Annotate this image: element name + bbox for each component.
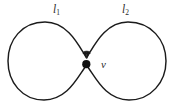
figure-canvas: l1 l2 v	[0, 0, 174, 104]
loop-1-label-subscript: 1	[56, 8, 60, 17]
wedge-of-circles-graphic	[0, 0, 174, 104]
loop-2-label: l2	[122, 4, 129, 16]
vertex-dot	[82, 60, 90, 68]
right-loop-curve	[87, 22, 166, 100]
loop-2-label-subscript: 2	[125, 8, 129, 17]
loop-1-label: l1	[53, 4, 60, 16]
left-loop-curve	[8, 22, 86, 100]
vertex-label: v	[101, 59, 106, 70]
